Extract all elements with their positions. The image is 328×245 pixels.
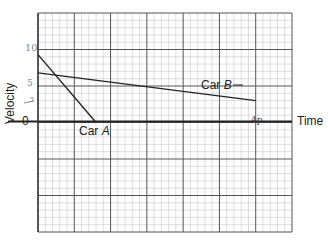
velocity-time-graph (0, 0, 328, 245)
car-b-prefix: Car (201, 78, 224, 92)
y-tick-3: 3 (29, 95, 34, 104)
car-a-letter: A (102, 124, 110, 138)
y-tick-5: 5 (27, 78, 33, 88)
y-axis-label: Velocity (3, 83, 17, 124)
car-b-letter: B (224, 78, 232, 92)
y-tick-0: 0 (22, 114, 29, 128)
car-a-label: Car A (79, 124, 110, 138)
time-mark-annotation: 4p (251, 115, 263, 125)
y-tick-10: 10 (25, 42, 38, 53)
car-b-label: Car B (201, 78, 232, 92)
x-axis-label: Time (297, 114, 323, 128)
car-a-prefix: Car (79, 124, 102, 138)
